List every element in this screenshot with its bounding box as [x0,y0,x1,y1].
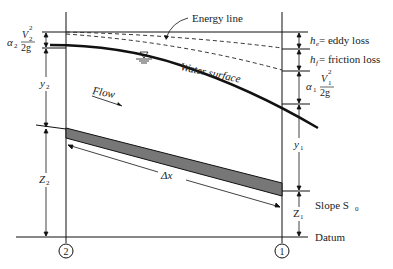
svg-text:α: α [7,36,13,48]
section-2-label: 2 [64,246,69,257]
datum-label: Datum [315,231,345,243]
flow-label: Flow [91,84,117,100]
tick-bed2 [36,125,66,129]
depth-y1-label: y 1 [292,138,306,152]
friction-loss-label: h f = friction loss [310,53,380,67]
velocity-head-1: α 1 V 2 1 2g [306,68,334,98]
svg-text:2: 2 [14,42,18,50]
energy-line-label: Energy line [192,12,243,24]
section-1-label: 1 [280,246,285,257]
velocity-head-2: α 2 V 2 2 2g [7,24,35,53]
flow-arrowhead [117,102,122,106]
energy-line-pointer [166,18,188,38]
svg-text:1: 1 [300,213,304,221]
energy-diagram: 2 1 Energy line Water surface Flow α 2 V… [0,0,393,269]
svg-text:2: 2 [328,68,332,76]
channel-bed [66,128,282,196]
svg-text:y: y [293,138,299,150]
elevation-z2-label: Z 2 [37,173,53,187]
left-dimensions [44,33,48,236]
water-surface-line [50,45,318,128]
svg-text:= friction loss: = friction loss [319,53,380,65]
svg-text:2g: 2g [21,42,31,53]
svg-text:Z: Z [39,173,46,185]
svg-text:2: 2 [29,24,33,32]
svg-text:Z: Z [293,207,300,219]
dx-label: Δx [160,169,172,181]
elevation-z1-label: Z 1 [291,207,307,221]
depth-y2-label: y 2 [38,77,52,91]
svg-text:α: α [306,80,312,92]
svg-text:1: 1 [313,86,317,94]
svg-text:2: 2 [46,83,50,91]
right-dimensions [297,33,301,236]
eddy-loss-label: h e = eddy loss [310,34,369,48]
energy-line-pointer-head [164,35,169,40]
svg-text:1: 1 [328,79,332,87]
slope-label: Slope S 0 [315,199,359,213]
svg-text:= eddy loss: = eddy loss [319,34,369,46]
friction-loss-line [66,34,282,70]
svg-text:2g: 2g [320,87,330,98]
svg-text:2: 2 [46,179,50,187]
svg-text:Slope S: Slope S [315,199,349,211]
eddy-loss-line [66,32,282,48]
svg-text:1: 1 [300,144,304,152]
water-surface-label: Water surface [180,60,242,84]
svg-text:0: 0 [355,205,359,213]
svg-text:y: y [39,77,45,89]
